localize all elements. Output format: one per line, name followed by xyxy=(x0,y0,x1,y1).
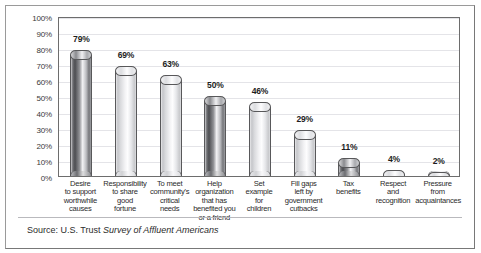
bar-cylinder-top xyxy=(428,172,450,177)
bar[interactable] xyxy=(160,75,182,176)
y-axis-tick-label: 0% xyxy=(41,174,52,183)
bar-value-label: 50% xyxy=(207,80,223,90)
bar-cylinder-base xyxy=(204,171,226,177)
bar-cylinder-base xyxy=(249,171,271,177)
y-axis-tick-label: 20% xyxy=(37,142,52,151)
bar[interactable] xyxy=(115,66,137,176)
bar-cylinder-top xyxy=(70,50,92,60)
bar-value-label: 4% xyxy=(388,154,400,164)
x-axis-tick-line: children xyxy=(237,205,282,213)
source-prefix: Source: U.S. Trust xyxy=(27,225,103,235)
x-axis-tick-line: causes xyxy=(58,205,103,213)
y-axis-tick-label: 100% xyxy=(32,14,52,23)
bar-slot: 11% xyxy=(327,18,372,176)
bar-cylinder-top xyxy=(294,130,316,140)
source-note: Source: U.S. Trust Survey of Affluent Am… xyxy=(27,225,218,235)
bar-cylinder-top xyxy=(160,75,182,85)
bar[interactable] xyxy=(70,50,92,176)
bar-cylinder-body xyxy=(249,107,271,176)
bar-value-label: 2% xyxy=(433,156,445,166)
y-axis-tick-label: 30% xyxy=(37,126,52,135)
x-axis-tick-line: acquaintances xyxy=(415,197,460,205)
bar-value-label: 69% xyxy=(118,50,134,60)
bar-slot: 2% xyxy=(416,18,460,176)
bar-cylinder-top xyxy=(338,158,360,168)
x-axis-tick-label: Pressurefromacquaintances xyxy=(415,180,460,205)
chart-figure: 100%90%80%70%60%50%40%30%20%10%0% 79%69%… xyxy=(5,5,475,249)
bar-value-label: 79% xyxy=(73,34,89,44)
bar[interactable] xyxy=(338,158,360,176)
x-axis-tick-label: Responsibilityto sharegoodfortune xyxy=(103,180,148,214)
bar-series: 79%69%63%50%46%29%11%4%2% xyxy=(59,18,459,176)
bar-value-label: 29% xyxy=(296,114,312,124)
x-axis-tick-label: Desireto supportworthwhilecauses xyxy=(58,180,103,214)
x-axis-tick-line: needs xyxy=(147,205,192,213)
bar-value-label: 46% xyxy=(252,86,268,96)
bar[interactable] xyxy=(383,170,405,176)
y-axis-tick-label: 50% xyxy=(37,94,52,103)
y-axis-tick-label: 80% xyxy=(37,46,52,55)
bar-cylinder-body xyxy=(204,101,226,176)
bar-slot: 50% xyxy=(193,18,238,176)
bar-cylinder-top xyxy=(204,96,226,106)
bar-slot: 29% xyxy=(282,18,327,176)
y-axis-tick-label: 40% xyxy=(37,110,52,119)
x-axis-tick-line: recognition xyxy=(371,197,416,205)
x-axis-tick-label: Helporganizationthat hasbenefited youor … xyxy=(192,180,237,222)
bar-cylinder-base xyxy=(115,171,137,177)
bar-cylinder-base xyxy=(70,171,92,177)
source-publication: Survey of Affluent Americans xyxy=(103,225,218,235)
bar-cylinder-body xyxy=(70,55,92,176)
bar-slot: 46% xyxy=(238,18,283,176)
bar-slot: 69% xyxy=(104,18,149,176)
x-axis-tick-label: To meetcommunity'scriticalneeds xyxy=(147,180,192,214)
bar[interactable] xyxy=(294,130,316,176)
y-axis-tick-label: 60% xyxy=(37,78,52,87)
bar-cylinder-base xyxy=(294,171,316,177)
y-axis-tick-label: 90% xyxy=(37,30,52,39)
bar-cylinder-base xyxy=(160,171,182,177)
bar[interactable] xyxy=(428,172,450,176)
plot-area: 79%69%63%50%46%29%11%4%2% xyxy=(58,17,460,177)
x-axis-tick-label: Respectandrecognition xyxy=(371,180,416,205)
bar-cylinder-body xyxy=(160,80,182,176)
bar-cylinder-top xyxy=(383,170,405,177)
y-axis: 100%90%80%70%60%50%40%30%20%10%0% xyxy=(6,17,56,177)
bar-cylinder-top xyxy=(249,102,271,112)
source-divider xyxy=(18,217,462,218)
bar-cylinder-body xyxy=(294,135,316,176)
x-axis-tick-label: Setexampleforchildren xyxy=(237,180,282,214)
x-axis-tick-line: cutbacks xyxy=(281,205,326,213)
x-axis-tick-line: benefits xyxy=(326,188,371,196)
bar-slot: 63% xyxy=(148,18,193,176)
x-axis-tick-label: Fill gapsleft bygovernmentcutbacks xyxy=(281,180,326,214)
bar-cylinder-top xyxy=(115,66,137,76)
bar-value-label: 11% xyxy=(341,142,357,152)
bar[interactable] xyxy=(204,96,226,176)
x-axis-tick-line: fortune xyxy=(103,205,148,213)
bar-slot: 4% xyxy=(372,18,417,176)
plot-wrapper: 79%69%63%50%46%29%11%4%2% xyxy=(58,17,460,177)
bar-cylinder-base xyxy=(338,171,360,177)
x-axis-tick-label: Taxbenefits xyxy=(326,180,371,197)
y-axis-tick-label: 10% xyxy=(37,158,52,167)
y-axis-tick-label: 70% xyxy=(37,62,52,71)
bar[interactable] xyxy=(249,102,271,176)
bar-slot: 79% xyxy=(59,18,104,176)
bar-cylinder-body xyxy=(115,71,137,176)
bar-value-label: 63% xyxy=(162,59,178,69)
